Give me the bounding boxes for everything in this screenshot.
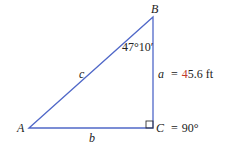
side-a-unit: ft (206, 67, 213, 81)
right-angle-marker (146, 121, 153, 128)
angle-c-equals: = (171, 121, 178, 135)
side-a-equals: = (171, 67, 178, 81)
angle-c-value: 90° (182, 121, 199, 135)
side-a-label: a (158, 67, 164, 81)
vertex-a-label: A (17, 122, 24, 134)
angle-b-value: 47°10′ (122, 41, 153, 53)
side-c-label: c (79, 68, 84, 80)
side-b-label: b (89, 132, 95, 144)
vertex-b-label: B (151, 3, 158, 15)
angle-c-measure: C =90° (156, 122, 199, 134)
side-a-value-rest: 5.6 (188, 67, 203, 81)
vertex-c-label: C (156, 121, 164, 135)
side-a-measure: a =45.6 ft (158, 68, 213, 80)
triangle-abc (29, 17, 153, 128)
